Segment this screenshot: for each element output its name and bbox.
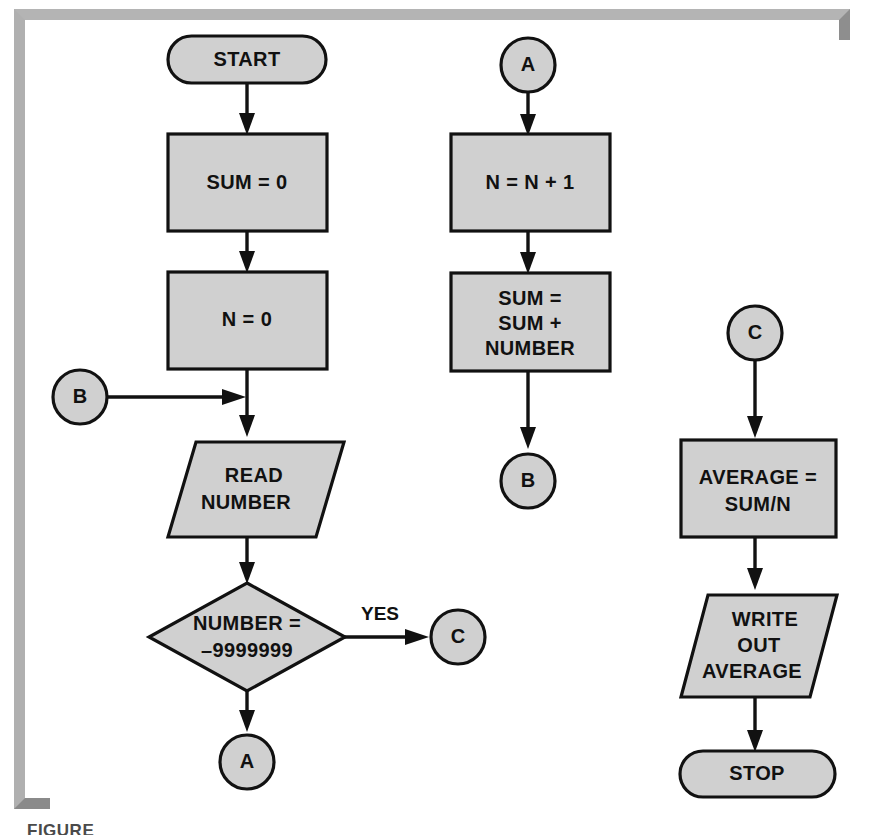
node-average: AVERAGE = SUM/N: [681, 440, 836, 537]
sum-accumulate-label-line2: SUM +: [498, 312, 562, 334]
edge-c-in-to-average: [747, 360, 763, 438]
edge-read-to-test: [239, 537, 255, 584]
node-stop: STOP: [680, 751, 835, 797]
node-test-sentinel: NUMBER = –9999999: [149, 583, 345, 691]
figure-caption: FIGURE: [27, 821, 94, 835]
edge-n-incr-to-sum-acc: [520, 231, 536, 274]
yes-branch-label: YES: [361, 603, 399, 624]
connector-a-in: A: [501, 38, 555, 92]
write-average-label-line3: AVERAGE: [702, 660, 802, 682]
edge-sum-init-to-n-init: [239, 231, 255, 273]
node-write-average: WRITE OUT AVERAGE: [681, 595, 837, 697]
connector-c-out: C: [431, 610, 485, 664]
flowchart-canvas: START SUM = 0 N = 0 B: [0, 0, 876, 835]
node-sum-init: SUM = 0: [168, 134, 327, 231]
average-label-line2: SUM/N: [725, 493, 791, 515]
connector-c-in: C: [728, 306, 782, 360]
connector-c-in-label: C: [748, 321, 762, 343]
connector-a-out-label: A: [240, 750, 254, 772]
edge-write-to-stop: [747, 697, 763, 752]
stop-label: STOP: [729, 762, 785, 784]
read-number-label-line2: NUMBER: [201, 491, 291, 513]
start-label: START: [213, 48, 280, 70]
test-decision-shape: [149, 583, 345, 691]
n-increment-label: N = N + 1: [485, 171, 574, 193]
connector-c-out-label: C: [451, 625, 465, 647]
average-label-line1: AVERAGE =: [699, 466, 817, 488]
sum-accumulate-label-line1: SUM =: [498, 287, 562, 309]
write-average-label-line1: WRITE: [732, 608, 798, 630]
edge-test-yes-to-c: YES: [345, 603, 429, 645]
connector-a-out: A: [220, 735, 274, 789]
figure-root: START SUM = 0 N = 0 B: [0, 0, 876, 835]
edge-sum-acc-to-b-out: [520, 371, 536, 449]
node-n-increment: N = N + 1: [451, 134, 610, 231]
connector-b-out-label: B: [521, 469, 535, 491]
read-number-label-line1: READ: [225, 464, 283, 486]
write-average-label-line2: OUT: [737, 634, 780, 656]
node-read-number: READ NUMBER: [168, 442, 344, 537]
edge-average-to-write: [747, 537, 763, 590]
n-init-label: N = 0: [222, 308, 272, 330]
node-start: START: [168, 36, 326, 83]
edge-b-in-to-read-junction: [107, 389, 246, 405]
edge-start-to-sum-init: [239, 83, 255, 135]
node-sum-accumulate: SUM = SUM + NUMBER: [451, 273, 610, 371]
connector-b-in-label: B: [73, 385, 87, 407]
node-n-init: N = 0: [168, 272, 327, 369]
test-label-line1: NUMBER =: [193, 612, 301, 634]
edge-a-in-to-n-incr: [520, 92, 536, 136]
edge-test-no-to-a: [239, 691, 255, 732]
test-label-line2: –9999999: [201, 639, 293, 661]
connector-b-in: B: [53, 370, 107, 424]
sum-accumulate-label-line3: NUMBER: [485, 337, 575, 359]
read-number-io-shape: [168, 442, 344, 537]
edge-n-init-to-read: [239, 369, 255, 437]
average-box-shape: [681, 440, 836, 537]
connector-a-in-label: A: [521, 53, 535, 75]
connector-b-out: B: [501, 454, 555, 508]
sum-init-label: SUM = 0: [206, 171, 287, 193]
